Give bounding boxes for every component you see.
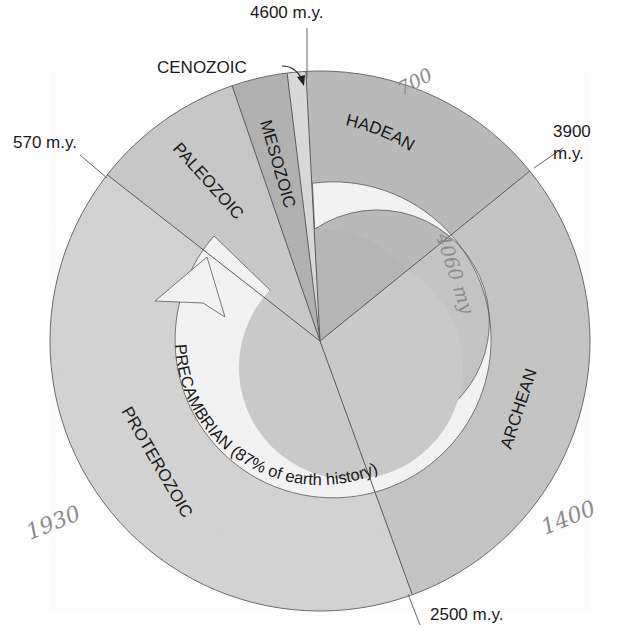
texture-overlay (50, 71, 590, 611)
pencil-note-1400: 1400 (538, 495, 599, 539)
pencil-note-1930: 1930 (23, 500, 84, 544)
label-3900-my-unit: m.y. (553, 144, 584, 163)
label-570-my: 570 m.y. (13, 133, 77, 152)
geologic-time-pie-diagram: 4600 m.y. CENOZOIC 570 m.y. 3900 m.y. 25… (0, 0, 626, 634)
label-3900: 3900 (553, 122, 591, 141)
label-4600-my: 4600 m.y. (250, 3, 323, 22)
label-cenozoic: CENOZOIC (157, 58, 247, 77)
label-2500-my: 2500 m.y. (430, 605, 503, 624)
